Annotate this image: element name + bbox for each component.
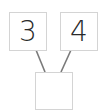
whole-box-answer[interactable]	[35, 72, 73, 110]
part-value-right: 4	[70, 18, 88, 46]
connector-right	[61, 50, 71, 72]
connector-left	[36, 50, 45, 72]
part-box-right: 4	[60, 12, 98, 51]
part-value-left: 3	[19, 18, 37, 46]
part-box-left: 3	[9, 12, 47, 51]
